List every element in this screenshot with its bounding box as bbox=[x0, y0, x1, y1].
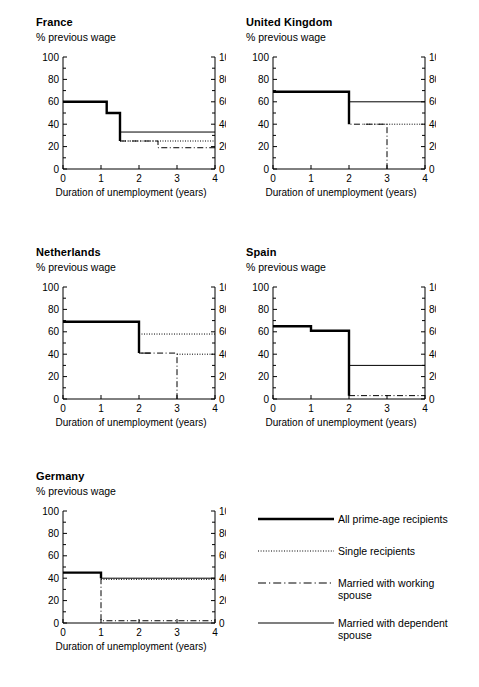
svg-text:0: 0 bbox=[60, 403, 66, 414]
svg-text:0: 0 bbox=[60, 627, 66, 638]
svg-text:4: 4 bbox=[212, 627, 218, 638]
legend-label-single-recipients: Single recipients bbox=[338, 545, 415, 557]
svg-text:100: 100 bbox=[219, 506, 226, 517]
legend-item-single-recipients: Single recipients bbox=[258, 544, 473, 574]
svg-text:60: 60 bbox=[48, 550, 60, 561]
plot-germany: 00202040406060808010010001234 bbox=[36, 501, 226, 641]
svg-text:2: 2 bbox=[136, 173, 142, 184]
legend-label-married-with-working-spouse: Married with working spouse bbox=[338, 577, 434, 601]
svg-text:80: 80 bbox=[429, 304, 436, 315]
svg-text:20: 20 bbox=[48, 595, 60, 606]
svg-text:80: 80 bbox=[48, 74, 60, 85]
svg-text:60: 60 bbox=[219, 550, 226, 561]
legend-item-married-with-dependent-spouse: Married with dependent spouse bbox=[258, 616, 473, 646]
svg-text:3: 3 bbox=[174, 403, 180, 414]
x-axis-title-france: Duration of unemployment (years) bbox=[36, 187, 226, 199]
panel-united-kingdom: United Kingdom % previous wage 002020404… bbox=[246, 16, 436, 199]
svg-text:80: 80 bbox=[258, 304, 270, 315]
legend: All prime-age recipients Single recipien… bbox=[258, 512, 473, 662]
plot-svg-united-kingdom: 00202040406060808010010001234 bbox=[246, 47, 436, 187]
svg-text:0: 0 bbox=[263, 164, 269, 175]
svg-text:20: 20 bbox=[48, 141, 60, 152]
panel-spain: Spain % previous wage 002020404060608080… bbox=[246, 246, 436, 429]
y-axis-title-france: % previous wage bbox=[36, 31, 226, 43]
panel-netherlands: Netherlands % previous wage 002020404060… bbox=[36, 246, 226, 429]
svg-text:60: 60 bbox=[219, 96, 226, 107]
svg-text:0: 0 bbox=[219, 618, 225, 629]
plot-svg-spain: 00202040406060808010010001234 bbox=[246, 277, 436, 417]
svg-text:100: 100 bbox=[429, 282, 436, 293]
panel-title-france: France bbox=[36, 16, 226, 28]
legend-swatch-dotted-icon bbox=[258, 544, 334, 558]
svg-text:100: 100 bbox=[252, 52, 269, 63]
svg-text:100: 100 bbox=[42, 506, 59, 517]
series-line bbox=[139, 335, 177, 399]
svg-text:1: 1 bbox=[98, 173, 104, 184]
svg-text:60: 60 bbox=[48, 326, 60, 337]
svg-text:0: 0 bbox=[53, 618, 59, 629]
series-line bbox=[63, 322, 139, 353]
svg-text:2: 2 bbox=[136, 403, 142, 414]
panel-title-spain: Spain bbox=[246, 246, 436, 258]
legend-label-all-prime-age-recipients: All prime-age recipients bbox=[338, 513, 448, 525]
svg-text:20: 20 bbox=[219, 371, 226, 382]
legend-item-all-prime-age-recipients: All prime-age recipients bbox=[258, 512, 473, 542]
svg-text:4: 4 bbox=[422, 173, 428, 184]
panel-germany: Germany % previous wage 0020204040606080… bbox=[36, 470, 226, 653]
svg-text:20: 20 bbox=[429, 371, 436, 382]
svg-text:100: 100 bbox=[429, 52, 436, 63]
svg-text:0: 0 bbox=[53, 164, 59, 175]
svg-text:40: 40 bbox=[48, 119, 60, 130]
svg-text:20: 20 bbox=[429, 141, 436, 152]
svg-text:20: 20 bbox=[258, 141, 270, 152]
svg-text:80: 80 bbox=[429, 74, 436, 85]
plot-spain: 00202040406060808010010001234 bbox=[246, 277, 436, 417]
svg-text:40: 40 bbox=[48, 349, 60, 360]
svg-text:80: 80 bbox=[48, 528, 60, 539]
y-axis-title-united-kingdom: % previous wage bbox=[246, 31, 436, 43]
svg-text:100: 100 bbox=[219, 52, 226, 63]
panel-title-germany: Germany bbox=[36, 470, 226, 482]
svg-text:20: 20 bbox=[219, 141, 226, 152]
svg-text:3: 3 bbox=[384, 173, 390, 184]
svg-text:3: 3 bbox=[174, 627, 180, 638]
series-line bbox=[273, 326, 349, 395]
svg-text:0: 0 bbox=[60, 173, 66, 184]
svg-text:2: 2 bbox=[346, 403, 352, 414]
svg-text:1: 1 bbox=[308, 403, 314, 414]
y-axis-title-spain: % previous wage bbox=[246, 261, 436, 273]
plot-svg-france: 00202040406060808010010001234 bbox=[36, 47, 226, 187]
svg-text:20: 20 bbox=[219, 595, 226, 606]
svg-text:100: 100 bbox=[252, 282, 269, 293]
legend-swatch-thick-solid-icon bbox=[258, 512, 334, 526]
series-line bbox=[273, 92, 349, 124]
plot-svg-netherlands: 00202040406060808010010001234 bbox=[36, 277, 226, 417]
svg-text:3: 3 bbox=[174, 173, 180, 184]
svg-text:1: 1 bbox=[308, 173, 314, 184]
svg-text:60: 60 bbox=[258, 326, 270, 337]
panel-title-united-kingdom: United Kingdom bbox=[246, 16, 436, 28]
svg-text:4: 4 bbox=[422, 403, 428, 414]
x-axis-title-spain: Duration of unemployment (years) bbox=[246, 417, 436, 429]
svg-text:3: 3 bbox=[384, 403, 390, 414]
x-axis-title-united-kingdom: Duration of unemployment (years) bbox=[246, 187, 436, 199]
svg-text:2: 2 bbox=[136, 627, 142, 638]
legend-label-married-with-dependent-spouse: Married with dependent spouse bbox=[338, 617, 448, 641]
svg-text:60: 60 bbox=[48, 96, 60, 107]
panel-france: France % previous wage 00202040406060808… bbox=[36, 16, 226, 199]
series-line bbox=[63, 102, 120, 141]
svg-text:20: 20 bbox=[258, 371, 270, 382]
svg-text:0: 0 bbox=[270, 403, 276, 414]
svg-text:2: 2 bbox=[346, 173, 352, 184]
legend-swatch-thin-solid-icon bbox=[258, 616, 334, 630]
plot-united-kingdom: 00202040406060808010010001234 bbox=[246, 47, 436, 187]
svg-text:1: 1 bbox=[98, 403, 104, 414]
svg-text:1: 1 bbox=[98, 627, 104, 638]
svg-text:0: 0 bbox=[270, 173, 276, 184]
svg-text:80: 80 bbox=[219, 74, 226, 85]
svg-text:40: 40 bbox=[219, 349, 226, 360]
svg-text:100: 100 bbox=[219, 282, 226, 293]
legend-swatch-dash-dot-icon bbox=[258, 576, 334, 590]
y-axis-title-netherlands: % previous wage bbox=[36, 261, 226, 273]
svg-text:40: 40 bbox=[48, 573, 60, 584]
